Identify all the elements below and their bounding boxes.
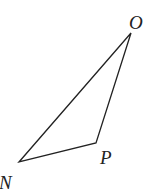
vertex-label-p: P: [99, 147, 112, 168]
vertex-label-o: O: [129, 12, 143, 33]
triangle-diagram: O P N: [0, 0, 149, 195]
triangle-onp: [19, 33, 131, 162]
vertex-label-n: N: [0, 172, 13, 193]
